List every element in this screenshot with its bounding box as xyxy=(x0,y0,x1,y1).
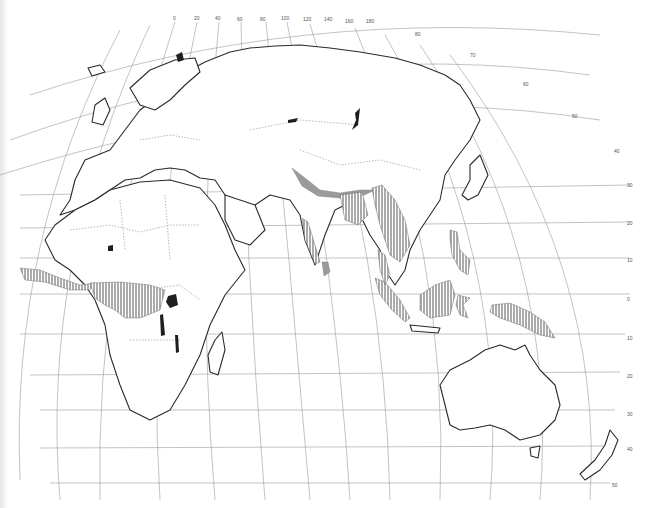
lon-label: 80 xyxy=(260,16,266,22)
lon-label: 20 xyxy=(194,15,200,21)
lat-label: 30 xyxy=(627,182,633,188)
lon-label: 120 xyxy=(303,16,312,22)
lon-label: 160 xyxy=(345,18,354,24)
lon-label: 0 xyxy=(173,15,176,21)
lat-label: 0 xyxy=(627,296,630,302)
lat-label: 20 xyxy=(627,220,633,226)
lon-label: 180 xyxy=(366,18,375,24)
lon-label: 100 xyxy=(281,15,290,21)
sri-lanka xyxy=(322,262,330,276)
lat-label: 30 xyxy=(627,411,633,417)
lat-label: 10 xyxy=(627,335,633,341)
borneo xyxy=(420,280,455,318)
lat-label: 40 xyxy=(614,148,620,154)
new-guinea xyxy=(490,303,555,338)
lat-label: 60 xyxy=(523,81,529,87)
british-isles xyxy=(92,98,110,125)
lat-label: 20 xyxy=(627,373,633,379)
lon-label: 60 xyxy=(237,16,243,22)
sumatra xyxy=(375,278,410,322)
sulawesi xyxy=(456,295,470,318)
landmasses xyxy=(45,45,618,480)
japan xyxy=(462,155,488,200)
australia xyxy=(440,345,560,440)
longitude-labels: 0 20 40 60 80 100 120 140 160 180 xyxy=(173,15,375,24)
new-zealand xyxy=(580,430,618,480)
madagascar xyxy=(208,332,225,375)
lat-label: 10 xyxy=(627,257,633,263)
lat-label: 80 xyxy=(415,31,421,37)
lon-label: 140 xyxy=(324,16,333,22)
philippines xyxy=(450,230,470,275)
lat-label: 50 xyxy=(572,113,578,119)
lon-label: 40 xyxy=(215,15,221,21)
lat-label: 70 xyxy=(470,52,476,58)
lat-label: 50 xyxy=(612,482,618,488)
iceland xyxy=(88,65,105,76)
lat-label: 40 xyxy=(627,446,633,452)
java xyxy=(410,325,440,333)
world-map: 0 20 40 60 80 100 120 140 160 180 80 70 … xyxy=(0,0,650,508)
tasmania xyxy=(530,446,540,458)
region-lake-chad xyxy=(108,245,113,251)
